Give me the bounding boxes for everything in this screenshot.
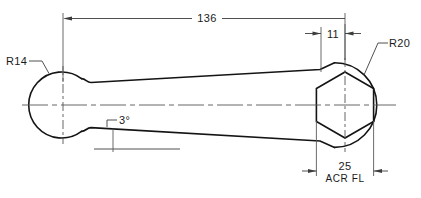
arrowhead-25-left bbox=[308, 169, 316, 173]
arrowhead-25-right bbox=[374, 169, 382, 173]
radius-r14-group: R14 bbox=[6, 55, 49, 74]
dimension-136-group: 136 bbox=[63, 12, 345, 82]
dimension-136-text: 136 bbox=[197, 12, 217, 24]
leader-line-r20 bbox=[364, 43, 388, 75]
upper-profile-edge bbox=[82, 63, 335, 83]
lower-profile-edge bbox=[82, 128, 335, 148]
radius-r20-text: R20 bbox=[389, 37, 410, 49]
centerlines-group bbox=[22, 58, 396, 152]
flat-note-text: ACR FL bbox=[325, 173, 364, 184]
dimension-11-group: 11 bbox=[305, 24, 361, 72]
dimension-11-text: 11 bbox=[327, 28, 339, 40]
leader-line-3deg bbox=[107, 120, 117, 127]
cad-drawing-svg: 136 11 R14 R20 bbox=[0, 0, 421, 198]
engineering-drawing-canvas: 136 11 R14 R20 bbox=[0, 0, 421, 198]
dimension-25-text: 25 bbox=[338, 160, 351, 172]
radius-r14-text: R14 bbox=[6, 55, 27, 67]
angle-3deg-text: 3° bbox=[119, 114, 130, 126]
leader-line-r14 bbox=[29, 61, 49, 74]
radius-r20-group: R20 bbox=[364, 37, 410, 76]
arrowhead-11-left bbox=[313, 32, 322, 36]
arrowhead-11-right bbox=[345, 32, 354, 36]
arrowhead-136-left bbox=[63, 17, 72, 21]
